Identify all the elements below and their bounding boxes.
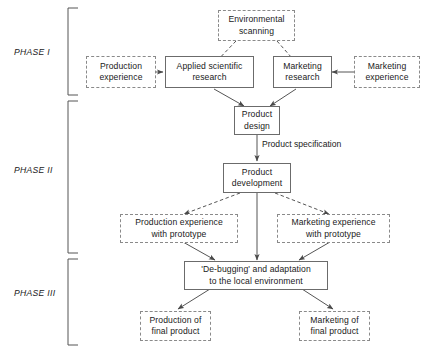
node-marketing-experience: Marketing experience <box>354 56 420 88</box>
edge-product-development-to-marketing-prototype <box>275 193 329 214</box>
node-product-design: Product design <box>234 106 280 135</box>
node-applied-scientific-research-line2: research <box>175 72 245 83</box>
node-product-development-line1: Product <box>230 167 284 178</box>
phase-label-1: PHASE I <box>14 47 50 57</box>
node-production-of-final-product-line2: final product <box>148 326 204 337</box>
node-marketing-research: Marketing research <box>273 56 332 88</box>
edge-debugging-to-marketing-final <box>302 289 333 309</box>
node-production-of-final-product: Production of final product <box>140 311 211 341</box>
node-debugging-and-adaptation: 'De-bugging' and adaptation to the local… <box>184 261 328 290</box>
node-product-design-line1: Product <box>240 109 274 120</box>
node-product-development-line2: development <box>230 178 284 189</box>
phase-1-bracket <box>68 8 78 95</box>
edge-label-product-specification-line2: specification <box>294 139 341 149</box>
node-marketing-of-final-product: Marketing of final product <box>299 311 370 341</box>
node-marketing-experience-with-prototype: Marketing experience with prototype <box>277 214 390 243</box>
edge-applied-research-to-product-design <box>214 89 244 106</box>
node-production-experience-line2: experience <box>97 72 144 83</box>
phase-label-2: PHASE II <box>14 165 53 175</box>
edge-marketing-prototype-to-debugging <box>299 242 330 260</box>
edge-debugging-to-production-final <box>178 289 210 309</box>
edge-label-product-specification: Product specification <box>262 139 341 150</box>
node-environmental-scanning: Environmental scanning <box>218 10 295 41</box>
node-production-experience: Production experience <box>86 56 156 88</box>
node-applied-scientific-research: Applied scientific research <box>165 56 254 88</box>
node-marketing-experience-line2: experience <box>363 72 410 83</box>
edge-production-prototype-to-debugging <box>183 242 215 260</box>
node-environmental-scanning-line1: Environmental <box>226 14 286 25</box>
node-debugging-and-adaptation-line1: 'De-bugging' and adaptation <box>199 264 313 275</box>
edge-marketing-research-to-product-design <box>270 89 296 106</box>
node-marketing-experience-line1: Marketing <box>363 61 410 72</box>
node-marketing-of-final-product-line2: final product <box>308 326 361 337</box>
node-debugging-and-adaptation-line2: to the local environment <box>199 276 313 287</box>
node-product-design-line2: design <box>240 121 274 132</box>
connector-layer <box>0 0 425 353</box>
node-production-experience-with-prototype: Production experience with prototype <box>120 214 238 243</box>
edge-product-development-to-production-prototype <box>184 193 240 214</box>
node-production-experience-with-prototype-line2: with prototype <box>133 229 225 240</box>
node-marketing-research-line2: research <box>281 72 324 83</box>
node-marketing-experience-with-prototype-line1: Marketing experience <box>289 217 377 228</box>
node-marketing-experience-with-prototype-line2: with prototype <box>289 229 377 240</box>
node-applied-scientific-research-line1: Applied scientific <box>175 61 245 72</box>
node-marketing-of-final-product-line1: Marketing of <box>308 315 361 326</box>
flow-diagram: PHASE I PHASE II PHASE III Environmental… <box>0 0 425 353</box>
node-marketing-research-line1: Marketing <box>281 61 324 72</box>
phase-2-bracket <box>68 101 78 253</box>
node-product-development: Product development <box>223 163 291 193</box>
node-production-of-final-product-line1: Production of <box>148 315 204 326</box>
node-environmental-scanning-line2: scanning <box>226 26 286 37</box>
node-production-experience-line1: Production <box>97 61 144 72</box>
phase-label-3: PHASE III <box>14 288 55 298</box>
edge-label-product-specification-line1: Product <box>262 139 292 149</box>
phase-3-bracket <box>68 259 78 345</box>
node-production-experience-with-prototype-line1: Production experience <box>133 217 225 228</box>
